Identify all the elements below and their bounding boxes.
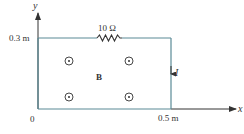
current-loop — [38, 38, 171, 109]
resistor-label: 10 Ω — [98, 23, 116, 33]
x-tick-label: 0.5 m — [158, 113, 179, 123]
origin-label: 0 — [30, 114, 35, 124]
field-dot-icon — [125, 93, 133, 101]
field-dot-icon — [65, 57, 73, 65]
y-axis-label: y — [32, 0, 38, 11]
field-dot-icon — [65, 93, 73, 101]
x-axis-label: x — [237, 103, 243, 114]
resistor — [97, 35, 122, 41]
field-label: B — [96, 72, 102, 82]
field-dot-icon — [125, 57, 133, 65]
y-tick-label: 0.3 m — [9, 33, 30, 43]
magnetic-field-loop-diagram: y x 10 Ω I B — [0, 0, 244, 134]
current-label: I — [174, 67, 179, 78]
